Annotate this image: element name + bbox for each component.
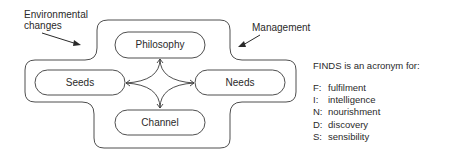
environmental-line-1: Environmental	[24, 9, 88, 20]
needs-label: Needs	[195, 77, 285, 89]
arrowheads	[126, 59, 194, 108]
connector-arrows	[126, 59, 194, 108]
legend-value: discovery	[328, 119, 368, 130]
management-pointer-arrow	[238, 35, 260, 47]
finds-legend: FINDS is an acronym for: F:fulfilment I:…	[313, 60, 420, 143]
channel-label: Channel	[115, 117, 205, 129]
legend-key: S:	[313, 131, 328, 143]
seeds-label: Seeds	[35, 77, 125, 89]
environmental-pointer-arrow	[42, 33, 81, 46]
legend-key: F:	[313, 82, 328, 94]
legend-item: F:fulfilment	[313, 82, 420, 94]
legend-item: D:discovery	[313, 119, 420, 131]
environmental-line-2: changes	[24, 20, 88, 31]
legend-item: I:intelligence	[313, 94, 420, 106]
legend-key: N:	[313, 106, 328, 118]
environmental-changes-label: Environmental changes	[24, 9, 88, 31]
legend-item: N:nourishment	[313, 106, 420, 118]
legend-value: fulfilment	[328, 82, 366, 93]
legend-item: S:sensibility	[313, 131, 420, 143]
legend-value: intelligence	[328, 94, 376, 105]
legend-title: FINDS is an acronym for:	[313, 60, 420, 71]
legend-key: I:	[313, 94, 328, 106]
management-label: Management	[252, 22, 310, 33]
philosophy-label: Philosophy	[115, 39, 205, 51]
legend-value: sensibility	[328, 131, 369, 142]
legend-key: D:	[313, 119, 328, 131]
legend-value: nourishment	[328, 106, 380, 117]
